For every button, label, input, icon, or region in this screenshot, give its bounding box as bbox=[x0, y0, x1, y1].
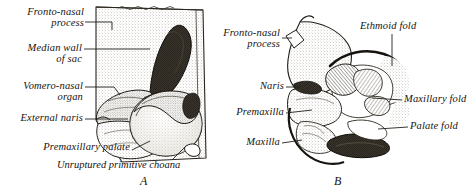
label-naris-b: Naris bbox=[220, 81, 284, 92]
label-external-naris-a: External naris bbox=[0, 113, 83, 124]
label-median-wall-of-sac-a: Median wall of sac bbox=[0, 43, 82, 64]
label-line: process bbox=[0, 18, 84, 29]
label-line: Maxillary fold bbox=[404, 94, 466, 105]
label-line: of sac bbox=[0, 54, 82, 65]
label-vomero-nasal-organ-a: Vomero-nasal organ bbox=[0, 81, 83, 102]
label-premaxillary-palate-a: Premaxillary palate bbox=[0, 142, 130, 153]
label-fronto-nasal-process-a: Fronto-nasal process bbox=[0, 7, 84, 28]
label-line: Vomero-nasal bbox=[0, 81, 83, 92]
label-premaxilla-b: Premaxilla bbox=[200, 107, 284, 118]
label-line: Premaxilla bbox=[200, 107, 284, 118]
label-line: Fronto-nasal bbox=[0, 7, 84, 18]
label-maxillary-fold-b: Maxillary fold bbox=[404, 94, 466, 105]
caption-unruptured-primitive-choana: Unruptured primitive choana bbox=[57, 159, 180, 170]
label-line: Palate fold bbox=[410, 121, 458, 132]
panel-b-artwork bbox=[286, 16, 410, 164]
label-line: Fronto-nasal bbox=[196, 28, 280, 39]
label-line: Ethmoid fold bbox=[360, 21, 416, 32]
label-fronto-nasal-process-b: Fronto-nasal process bbox=[196, 28, 280, 49]
label-line: organ bbox=[0, 92, 83, 103]
panel-a-artwork bbox=[96, 7, 206, 163]
label-ethmoid-fold-b: Ethmoid fold bbox=[360, 21, 416, 32]
figure-container: Fronto-nasal process Median wall of sac … bbox=[0, 0, 476, 191]
label-maxilla-b: Maxilla bbox=[200, 137, 280, 148]
panel-letter-a: A bbox=[140, 174, 147, 189]
label-line: Maxilla bbox=[200, 137, 280, 148]
panel-letter-b: B bbox=[334, 174, 341, 189]
label-line: process bbox=[196, 39, 280, 50]
label-line: Naris bbox=[220, 81, 284, 92]
label-line: External naris bbox=[0, 113, 83, 124]
label-palate-fold-b: Palate fold bbox=[410, 121, 458, 132]
label-line: Premaxillary palate bbox=[0, 142, 130, 153]
label-line: Median wall bbox=[0, 43, 82, 54]
